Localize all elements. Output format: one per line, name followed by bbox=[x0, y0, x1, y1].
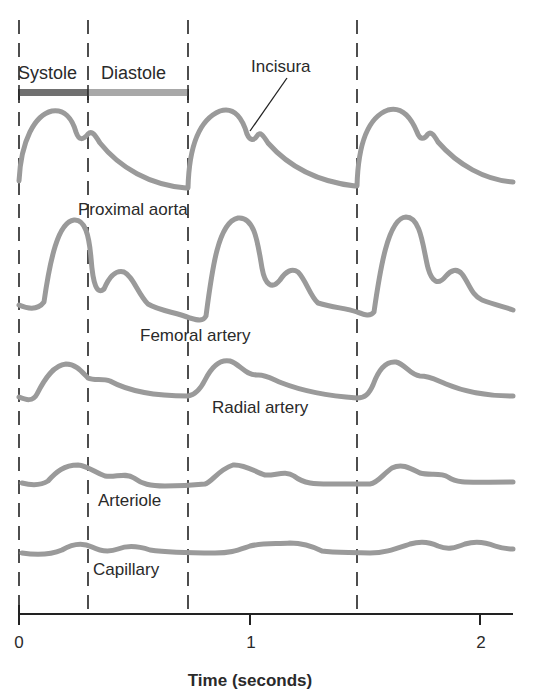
capillary-label: Capillary bbox=[93, 560, 160, 579]
diastole-bar bbox=[88, 89, 188, 96]
waveform-arteriole bbox=[22, 465, 513, 486]
waveform-femoral-artery bbox=[19, 217, 513, 320]
x-tick-0: 0 bbox=[14, 633, 23, 652]
systole-label: Systole bbox=[18, 63, 77, 83]
waveform-radial-artery bbox=[19, 361, 513, 400]
proximal-aorta-label: Proximal aorta bbox=[78, 200, 188, 219]
x-tick-1: 1 bbox=[246, 633, 255, 652]
pressure-waveform-diagram: Systole Diastole Incisura Proximal aorta… bbox=[0, 0, 535, 698]
waveform-capillary bbox=[22, 542, 513, 554]
arteriole-label: Arteriole bbox=[98, 491, 161, 510]
systole-bar bbox=[19, 89, 88, 96]
femoral-artery-label: Femoral artery bbox=[140, 326, 251, 345]
x-axis-title: Time (seconds) bbox=[188, 671, 312, 690]
waveform-proximal-aorta bbox=[19, 109, 513, 188]
incisura-label: Incisura bbox=[251, 57, 311, 76]
radial-artery-label: Radial artery bbox=[212, 398, 309, 417]
incisura-pointer bbox=[250, 78, 287, 131]
x-tick-2: 2 bbox=[476, 633, 485, 652]
diastole-label: Diastole bbox=[101, 63, 166, 83]
